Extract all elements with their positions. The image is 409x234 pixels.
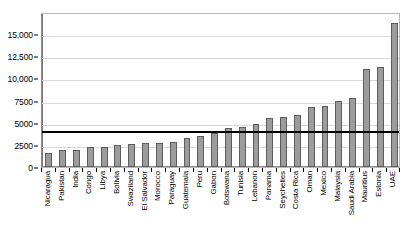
x-axis-tick-label: Oman [306, 171, 314, 192]
bar [156, 143, 163, 167]
y-axis-tick-label: 5000 [14, 119, 33, 128]
bar [128, 144, 135, 167]
x-axis-tick-label: Seychelles [279, 171, 287, 209]
bar [101, 147, 108, 167]
bar [280, 117, 287, 167]
bar [239, 127, 246, 167]
x-axis-tick-label: Libya [99, 171, 107, 190]
x-axis-tick-label: Congo [85, 171, 93, 194]
x-axis-tick-label: Paraguay [168, 171, 176, 204]
x-axis-tick-label: Botswana [223, 171, 231, 205]
bar [87, 147, 94, 167]
bar [377, 67, 384, 167]
y-axis-tick-mark [34, 145, 38, 146]
x-axis-tick-label: Gabon [210, 171, 218, 195]
bar [266, 118, 273, 167]
y-axis: 025005000750010,00012,50015,000 [0, 0, 38, 234]
x-axis-tick-label: Lebanon [251, 171, 259, 201]
bar [184, 138, 191, 167]
x-axis-tick-label: India [72, 171, 80, 188]
x-axis-tick-label: Pakistan [58, 171, 66, 201]
y-axis-tick-mark [34, 123, 38, 124]
bar [225, 128, 232, 167]
y-axis-tick-label: 15,000 [8, 31, 33, 40]
x-axis-tick-label: El Salvador [141, 171, 149, 211]
x-axis-tick-label: Nicaragua [44, 171, 52, 207]
x-axis-tick-label: Costa Rica [292, 171, 300, 209]
bar [308, 107, 315, 167]
x-axis-tick-label: Bolivia [113, 171, 121, 194]
bar [335, 101, 342, 167]
x-axis-tick-label: UAE [389, 171, 397, 187]
bar [294, 115, 301, 167]
bars-layer [42, 14, 399, 167]
x-axis-tick-label: Tunisia [237, 171, 245, 196]
bar [142, 143, 149, 167]
bar-chart: 025005000750010,00012,50015,000 Nicaragu… [0, 0, 409, 234]
y-axis-tick-mark [34, 79, 38, 80]
reference-line [42, 131, 399, 133]
bar [197, 136, 204, 167]
x-axis-tick-label: Saudi Arabia [348, 171, 356, 215]
bar [211, 133, 218, 167]
x-axis-tick-label: Mauritius [361, 171, 369, 203]
x-axis-tick-label: Malaysia [334, 171, 342, 202]
x-axis-tick-label: Peru [196, 171, 204, 188]
bar [45, 153, 52, 167]
x-axis-tick-label: Swaziland [127, 171, 135, 207]
y-axis-tick-label: 2500 [14, 141, 33, 150]
bar [73, 150, 80, 167]
y-axis-tick-label: 7500 [14, 97, 33, 106]
bar [391, 23, 398, 167]
y-axis-tick-label: 12,500 [8, 53, 33, 62]
x-axis-tick-label: Panama [265, 171, 273, 200]
bar [59, 150, 66, 167]
bar [322, 106, 329, 167]
y-axis-tick-mark [34, 57, 38, 58]
x-axis-tick-label: Morocco [154, 171, 162, 201]
y-axis-tick-mark [34, 35, 38, 36]
y-axis-tick-mark [34, 101, 38, 102]
bar [114, 145, 121, 167]
y-axis-tick-mark [34, 168, 38, 169]
plot-area [41, 13, 400, 168]
y-axis-tick-label: 0 [28, 164, 33, 173]
x-axis-tick-label: Mexico [320, 171, 328, 196]
x-axis-tick-label: Guatemala [182, 171, 190, 209]
bar [170, 142, 177, 167]
x-axis-tick-label: Estonia [375, 171, 383, 197]
x-axis-labels: NicaraguaPakistanIndiaCongoLibyaBoliviaS… [41, 171, 400, 234]
bar [363, 69, 370, 167]
y-axis-tick-label: 10,000 [8, 75, 33, 84]
